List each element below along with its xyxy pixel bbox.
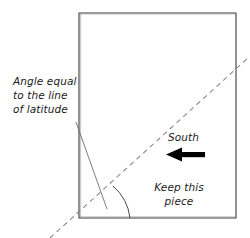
- keep-piece-label: Keep this piece: [143, 180, 215, 208]
- direction-label-south: South: [168, 130, 199, 144]
- fold-line-dashed: [50, 57, 249, 238]
- angle-arc-curve: [113, 186, 130, 218]
- fold-line: [50, 57, 249, 238]
- angle-arc: [113, 186, 130, 218]
- arrow-shaft: [180, 152, 205, 157]
- diagram-canvas: Angle equal to the line of latitude Sout…: [0, 0, 250, 238]
- direction-arrow-icon: [166, 148, 205, 162]
- angle-annotation-label: Angle equal to the line of latitude: [13, 74, 76, 116]
- arrow-head: [166, 148, 182, 162]
